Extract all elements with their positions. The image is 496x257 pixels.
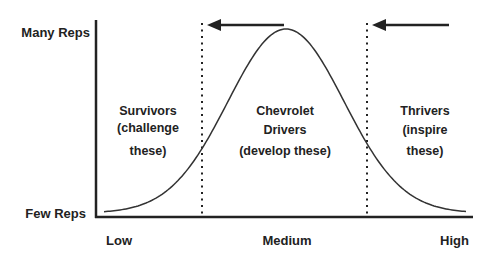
region-line: (challenge (117, 121, 179, 135)
region-chevrolet-drivers: Chevrolet Drivers (develop these) (239, 104, 331, 158)
arrowhead-icon (372, 19, 386, 31)
shift-left-arrow-1 (207, 19, 284, 31)
bell-curve-diagram: Many Reps Few Reps Low Medium High Survi… (0, 0, 496, 257)
region-line: (inspire (402, 123, 447, 137)
region-line: Chevrolet (256, 104, 314, 118)
y-axis-top-label: Many Reps (21, 25, 90, 40)
x-axis-label-high: High (440, 233, 469, 248)
region-line: these) (130, 144, 167, 158)
arrowhead-icon (207, 19, 221, 31)
region-line: Thrivers (400, 104, 449, 118)
region-line: Drivers (263, 123, 306, 137)
region-line: (develop these) (239, 144, 331, 158)
region-thrivers: Thrivers (inspire these) (400, 104, 449, 158)
x-axis-label-low: Low (106, 233, 133, 248)
region-line: these) (407, 144, 444, 158)
region-line: Survivors (119, 104, 177, 118)
y-axis-bottom-label: Few Reps (25, 206, 86, 221)
shift-left-arrow-2 (372, 19, 449, 31)
region-survivors: Survivors (challenge these) (117, 104, 179, 158)
x-axis-label-medium: Medium (262, 233, 311, 248)
